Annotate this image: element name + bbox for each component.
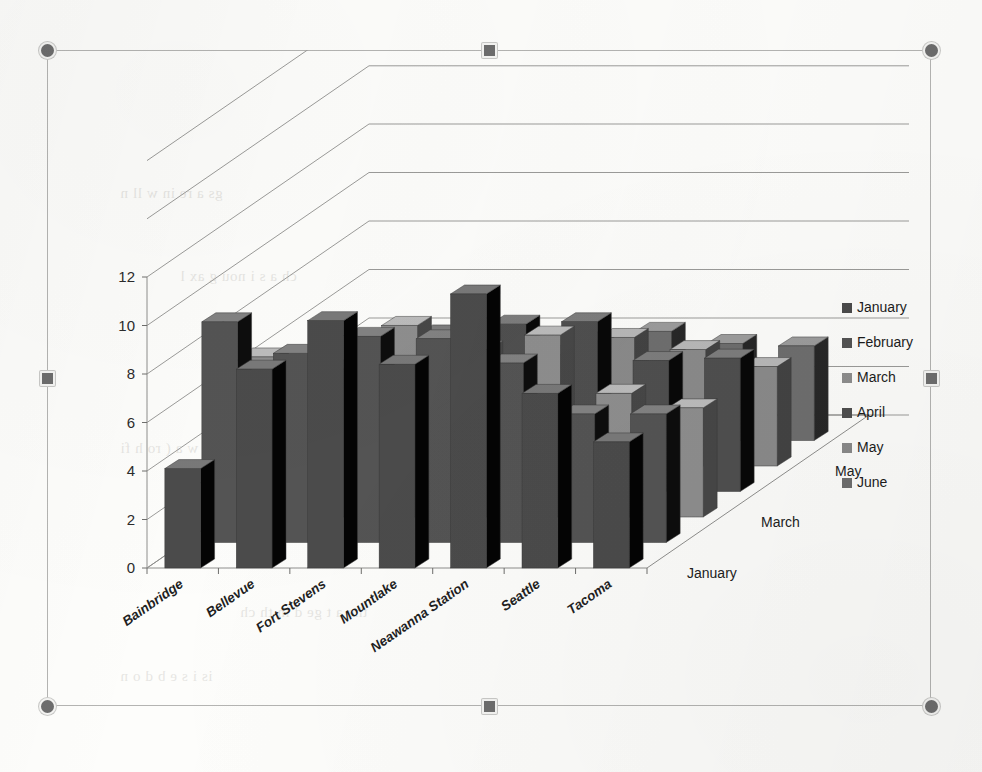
x-axis-category-label: Mountlake [337,576,401,627]
handle-top-left[interactable] [39,42,56,59]
chart-object-selection[interactable]: 024681012BainbridgeBellevueFort StevensM… [47,50,931,706]
handle-bottom-right[interactable] [923,698,940,715]
x-axis-category-label: Bainbridge [119,576,186,629]
legend-item-february[interactable]: February [842,334,913,350]
depth-axis-label: March [761,514,800,530]
bar-side-face [740,349,754,491]
bar-front-face [451,294,487,568]
bar-january-seattle[interactable] [522,384,572,568]
legend-swatch [842,338,852,348]
x-axis-category-label: Bellevue [203,576,257,620]
legend-item-january[interactable]: January [842,299,907,315]
y-axis-tick-label: 12 [118,268,135,285]
legend-swatch [842,443,852,453]
y-axis-tick-label: 8 [127,365,135,382]
y-axis-tick-label: 4 [127,462,135,479]
bar-january-bellevue[interactable] [236,360,286,568]
legend-item-march[interactable]: March [842,369,896,385]
depth-axis-label: January [687,565,737,581]
bar-side-face [201,460,215,568]
legend-label: March [857,369,896,385]
x-axis-labels: BainbridgeBellevueFort StevensMountlakeN… [119,576,614,655]
legend-label: June [857,474,888,490]
y-axis-tick-label: 0 [127,559,135,576]
x-axis [147,568,647,574]
bar-front-face [236,369,272,568]
bar-side-face [666,405,680,543]
bar-side-face [486,285,500,568]
legend-label: April [857,404,885,420]
bar-side-face [415,355,429,568]
bar-side-face [777,358,791,466]
legend-swatch [842,408,852,418]
gridline [147,173,909,326]
bar-january-mountlake[interactable] [379,355,429,568]
handle-bottom-center[interactable] [482,699,497,714]
gridline-upper [147,50,909,161]
bar-january-tacoma[interactable] [593,433,643,568]
bar-side-face [703,399,717,517]
chart-legend[interactable]: JanuaryFebruaryMarchAprilMayJune [842,299,913,490]
bar-side-face [343,312,357,568]
x-axis-category-label: Tacoma [564,576,614,618]
handle-bottom-left[interactable] [39,698,56,715]
bar-side-face [629,433,643,568]
legend-swatch [842,478,852,488]
legend-swatch [842,303,852,313]
legend-item-may[interactable]: May [842,439,883,455]
y-axis-tick-label: 10 [118,317,135,334]
x-axis-category-label: Fort Stevens [253,576,329,635]
bar-side-face [814,337,828,441]
gridline-upper [147,66,909,219]
y-axis-tick-label: 6 [127,414,135,431]
bar-side-face [558,384,572,568]
handle-top-right[interactable] [923,42,940,59]
bar-front-face [593,442,629,568]
bar-front-face [308,321,344,568]
handle-middle-right[interactable] [924,371,939,386]
bar-front-face [165,469,201,568]
bar-january-fort-stevens[interactable] [308,312,358,568]
gridline [147,124,909,277]
bar-january-neawanna-station[interactable] [451,285,501,568]
bar-front-face [379,364,415,568]
bar-side-face [272,360,286,568]
legend-label: January [857,299,907,315]
handle-middle-left[interactable] [40,371,55,386]
y-axis: 024681012 [118,268,147,576]
x-axis-category-label: Seattle [498,576,543,614]
legend-label: February [857,334,913,350]
y-axis-tick-label: 2 [127,511,135,528]
legend-label: May [857,439,883,455]
chart-bars[interactable] [165,285,828,568]
chart-canvas[interactable]: 024681012BainbridgeBellevueFort StevensM… [47,50,931,706]
legend-item-april[interactable]: April [842,404,885,420]
bar-front-face [522,393,558,568]
bar-january-bainbridge[interactable] [165,460,215,568]
legend-swatch [842,373,852,383]
handle-top-center[interactable] [482,43,497,58]
